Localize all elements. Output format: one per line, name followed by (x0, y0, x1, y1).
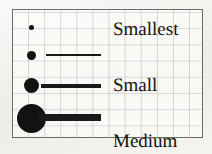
legend-label-smallest: Smallest (113, 20, 178, 39)
symbol-swatch-small (13, 43, 109, 73)
line-symbol-small (46, 54, 101, 56)
circle-symbol-smallest (29, 25, 34, 30)
line-symbol-large (39, 114, 101, 121)
symbol-swatch-smallest (13, 15, 109, 45)
legend-screenshot: Smallest Small Medium Large (0, 0, 212, 154)
line-symbol-medium (41, 84, 101, 88)
legend-row-large[interactable]: Large (13, 99, 202, 139)
legend-row-small[interactable]: Small (13, 43, 202, 73)
legend-row-smallest[interactable]: Smallest (13, 15, 202, 45)
legend-frame: Smallest Small Medium Large (12, 9, 203, 138)
circle-symbol-small (27, 51, 36, 60)
circle-symbol-medium (24, 78, 39, 93)
symbol-swatch-large (13, 99, 109, 139)
